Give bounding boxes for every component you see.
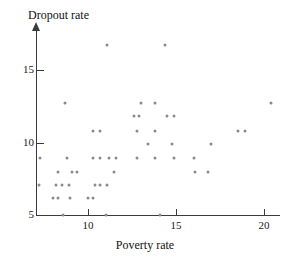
data-point <box>173 115 176 118</box>
y-axis-title: Dropout rate <box>28 8 89 23</box>
data-point <box>132 115 135 118</box>
data-point <box>76 170 79 173</box>
data-point <box>164 44 167 47</box>
data-point <box>106 183 109 186</box>
data-point <box>192 157 195 160</box>
data-point <box>146 142 149 145</box>
data-point <box>153 157 156 160</box>
data-point <box>92 129 95 132</box>
plot-area <box>36 28 282 216</box>
data-point <box>153 102 156 105</box>
data-point <box>236 129 239 132</box>
y-tick-label: 5 <box>14 209 34 220</box>
data-point <box>173 157 176 160</box>
data-point <box>62 214 65 217</box>
data-point <box>194 170 197 173</box>
data-point <box>39 157 42 160</box>
data-point <box>153 129 156 132</box>
data-point <box>136 157 139 160</box>
data-point <box>69 196 72 199</box>
data-point <box>166 115 169 118</box>
data-point <box>57 196 60 199</box>
data-point <box>136 129 139 132</box>
data-point <box>243 129 246 132</box>
data-point <box>87 196 90 199</box>
x-tick-label: 15 <box>164 220 188 231</box>
data-point <box>138 115 141 118</box>
data-point <box>57 170 60 173</box>
data-point <box>37 183 40 186</box>
data-point <box>65 157 68 160</box>
x-tick-label: 10 <box>76 220 100 231</box>
data-point <box>60 183 63 186</box>
y-tick-label: 10 <box>14 137 34 148</box>
data-point <box>51 196 54 199</box>
data-point <box>171 142 174 145</box>
data-point <box>55 183 58 186</box>
data-point <box>64 102 67 105</box>
data-point <box>104 214 107 217</box>
y-tick-label: 15 <box>14 64 34 75</box>
data-point <box>113 170 116 173</box>
data-point <box>270 102 273 105</box>
x-tick-label: 20 <box>252 220 276 231</box>
scatter-plot-figure: Dropout rate 51015 101520 Poverty rate <box>0 0 290 262</box>
data-point <box>106 44 109 47</box>
data-point <box>99 183 102 186</box>
data-point <box>139 102 142 105</box>
data-point <box>99 129 102 132</box>
data-point <box>210 142 213 145</box>
data-point <box>99 157 102 160</box>
data-point <box>92 157 95 160</box>
data-point <box>67 183 70 186</box>
data-point <box>92 196 95 199</box>
data-point <box>159 214 162 217</box>
data-point <box>206 170 209 173</box>
data-point <box>115 157 118 160</box>
data-point <box>94 183 97 186</box>
x-axis-title: Poverty rate <box>0 238 290 253</box>
data-point <box>108 157 111 160</box>
data-point <box>71 170 74 173</box>
